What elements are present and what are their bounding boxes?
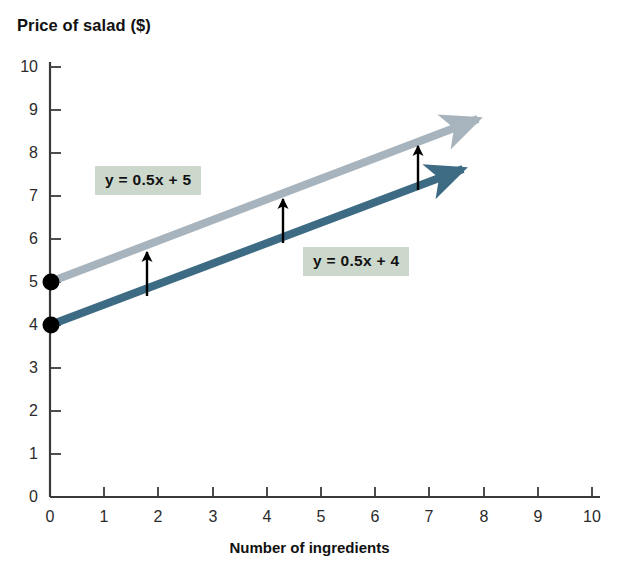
x-tick-label-7: 7 [425,508,434,526]
y-tick-label-1: 1 [14,445,38,463]
chart-figure: Price of salad ($) [0,0,619,574]
x-tick-label-5: 5 [317,508,326,526]
y-tick-label-8: 8 [14,144,38,162]
y-tick-label-4: 4 [14,316,38,334]
equation-label-lower: y = 0.5x + 4 [303,247,409,276]
x-axis-ticks [104,487,592,497]
x-tick-label-9: 9 [534,508,543,526]
y-axis-ticks [50,67,61,454]
axis-lines [50,62,600,497]
y-tick-label-7: 7 [14,187,38,205]
x-tick-label-3: 3 [209,508,218,526]
x-axis-title: Number of ingredients [0,539,619,556]
x-tick-label-6: 6 [371,508,380,526]
y-tick-label-9: 9 [14,101,38,119]
x-tick-label-10: 10 [583,508,601,526]
series-line-upper [50,119,478,282]
intercept-dot-lower [43,317,60,334]
x-tick-label-1: 1 [100,508,109,526]
y-tick-label-2: 2 [14,402,38,420]
x-tick-label-4: 4 [263,508,272,526]
equation-label-upper: y = 0.5x + 5 [95,166,201,195]
x-tick-label-8: 8 [480,508,489,526]
y-tick-label-0: 0 [14,488,38,506]
x-tick-label-2: 2 [154,508,163,526]
intercept-dot-upper [43,274,60,291]
plot-canvas [0,0,619,574]
y-tick-label-3: 3 [14,359,38,377]
x-tick-label-0: 0 [46,508,55,526]
y-tick-label-10: 10 [14,58,38,76]
y-tick-label-6: 6 [14,230,38,248]
y-tick-label-5: 5 [14,273,38,291]
